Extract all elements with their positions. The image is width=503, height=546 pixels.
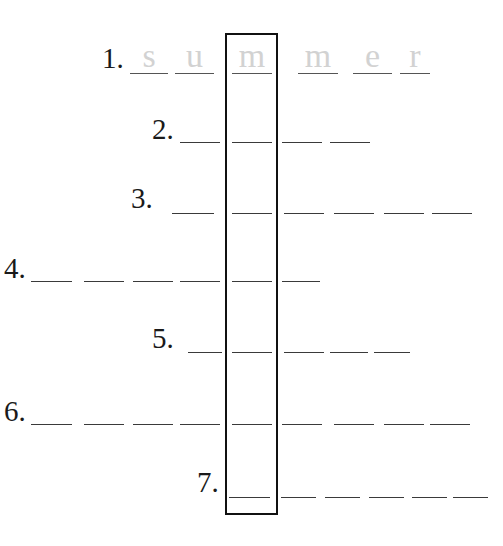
letter-blank[interactable] — [369, 497, 404, 498]
letter-blank[interactable] — [432, 213, 472, 214]
row-number-label: 6. — [4, 397, 26, 426]
letter-blank[interactable] — [232, 213, 272, 214]
letter-blank[interactable] — [31, 424, 72, 425]
letter-blank[interactable] — [384, 424, 424, 425]
letter-blank[interactable] — [180, 424, 220, 425]
letter-blank[interactable] — [232, 352, 272, 353]
letter-blank[interactable] — [232, 281, 272, 282]
letter-blank[interactable] — [384, 213, 424, 214]
letter-blank[interactable] — [172, 213, 214, 214]
row-number-label: 1. — [102, 44, 124, 73]
letter-blank[interactable] — [284, 352, 324, 353]
letter-blank[interactable] — [330, 352, 368, 353]
letter-blank[interactable] — [84, 424, 124, 425]
hint-letter: r — [400, 39, 430, 73]
letter-blank[interactable] — [188, 352, 222, 353]
row-number-label: 3. — [131, 184, 153, 213]
letter-blank[interactable] — [232, 424, 272, 425]
letter-blank[interactable] — [412, 497, 447, 498]
letter-blank[interactable] — [31, 281, 72, 282]
letter-blank[interactable] — [325, 497, 360, 498]
hint-letter: e — [353, 39, 392, 73]
letter-blank[interactable] — [133, 281, 173, 282]
letter-blank[interactable] — [282, 281, 320, 282]
letter-blank[interactable] — [284, 213, 324, 214]
row-number-label: 5. — [152, 324, 174, 353]
letter-blank[interactable] — [180, 281, 220, 282]
letter-blank[interactable] — [229, 497, 270, 498]
hint-letter: m — [232, 39, 272, 73]
row-number-label: 2. — [152, 115, 174, 144]
letter-blank[interactable] — [334, 213, 374, 214]
letter-blank[interactable] — [232, 142, 272, 143]
letter-blank[interactable] — [133, 424, 173, 425]
letter-blank[interactable] — [330, 142, 370, 143]
vertical-answer-box — [225, 33, 278, 515]
letter-blank[interactable] — [180, 142, 220, 143]
hint-letter: m — [298, 39, 338, 73]
letter-blank[interactable] — [334, 424, 374, 425]
word-puzzle: 1.summer2.3.4.5.6.7. — [0, 0, 503, 546]
hint-letter: u — [175, 39, 214, 73]
letter-blank[interactable] — [282, 424, 322, 425]
letter-blank[interactable] — [430, 424, 470, 425]
row-number-label: 7. — [197, 468, 219, 497]
row-number-label: 4. — [4, 254, 26, 283]
letter-blank[interactable] — [374, 352, 410, 353]
letter-blank[interactable] — [84, 281, 124, 282]
letter-blank[interactable] — [453, 497, 488, 498]
letter-blank[interactable] — [281, 497, 316, 498]
hint-letter: s — [130, 39, 168, 73]
letter-blank[interactable] — [282, 142, 322, 143]
